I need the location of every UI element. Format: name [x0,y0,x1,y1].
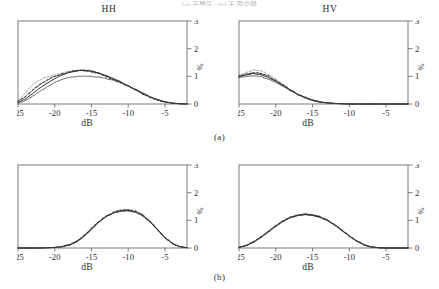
svg-text:2: 2 [194,44,198,54]
panel-b-hh-xlabel: dB [0,262,196,272]
panel-b-hh-ylabel: % [195,207,205,214]
svg-text:-20: -20 [49,252,60,261]
panel-a-hh-xlabel: dB [0,118,196,128]
svg-text:1: 1 [415,215,419,225]
panel-a-hh: HH 0123-25-20-15-10-5 dB % [0,4,218,132]
panel-a-hh-plot: 0123-25-20-15-10-5 [17,20,213,116]
svg-text:-10: -10 [343,252,354,261]
svg-text:2: 2 [415,44,419,54]
svg-text:-5: -5 [161,108,168,117]
svg-text:1: 1 [415,71,419,81]
svg-text:3: 3 [415,164,419,170]
panel-a-hv-xlabel: dB [199,118,417,128]
panel-b-hh: 0123-25-20-15-10-5 dB % [0,148,218,276]
svg-text:-5: -5 [382,108,389,117]
panel-a-hv-title: HV [221,4,439,14]
svg-text:1: 1 [194,215,198,225]
panel-b-hv-plot: 0123-25-20-15-10-5 [238,164,434,260]
panel-a-hh-ylabel: % [195,63,205,70]
figure-container: (a) 干旱区; (b) 干湿交替 HH 0123-25-20-15-10-5 … [0,0,439,289]
svg-text:2: 2 [415,188,419,198]
panel-a-hv-plot: 0123-25-20-15-10-5 [238,20,434,116]
svg-text:0: 0 [415,243,419,253]
svg-text:-20: -20 [49,108,60,117]
svg-text:-15: -15 [307,108,318,117]
svg-text:3: 3 [194,20,198,26]
subcaption-b: (b) [0,272,439,282]
svg-text:-25: -25 [238,252,245,261]
svg-text:1: 1 [194,71,198,81]
svg-text:-20: -20 [270,252,281,261]
svg-text:-25: -25 [238,108,245,117]
svg-text:-15: -15 [307,252,318,261]
svg-text:-10: -10 [122,108,133,117]
svg-text:0: 0 [194,243,198,253]
panel-a-hh-svg: 0123-25-20-15-10-5 [17,20,213,116]
panel-a-hh-title: HH [0,4,218,14]
svg-text:-5: -5 [382,252,389,261]
panel-b-hv: 0123-25-20-15-10-5 dB % [221,148,439,276]
svg-text:2: 2 [194,188,198,198]
svg-text:0: 0 [415,99,419,109]
panel-b-hv-svg: 0123-25-20-15-10-5 [238,164,434,260]
panel-a-hv-ylabel: % [416,63,426,70]
panel-b-hh-svg: 0123-25-20-15-10-5 [17,164,213,260]
svg-text:3: 3 [415,20,419,26]
svg-text:0: 0 [194,99,198,109]
svg-text:-5: -5 [161,252,168,261]
panel-b-hh-plot: 0123-25-20-15-10-5 [17,164,213,260]
svg-text:-10: -10 [122,252,133,261]
svg-text:-25: -25 [17,252,24,261]
panel-b-hv-xlabel: dB [199,262,417,272]
svg-text:-15: -15 [86,252,97,261]
svg-text:-25: -25 [17,108,24,117]
panel-a-hv-svg: 0123-25-20-15-10-5 [238,20,434,116]
svg-text:-20: -20 [270,108,281,117]
svg-text:3: 3 [194,164,198,170]
subcaption-a: (a) [0,132,439,142]
svg-text:-10: -10 [343,108,354,117]
panel-a-hv: HV 0123-25-20-15-10-5 dB % [221,4,439,132]
svg-text:-15: -15 [86,108,97,117]
panel-b-hv-ylabel: % [416,207,426,214]
